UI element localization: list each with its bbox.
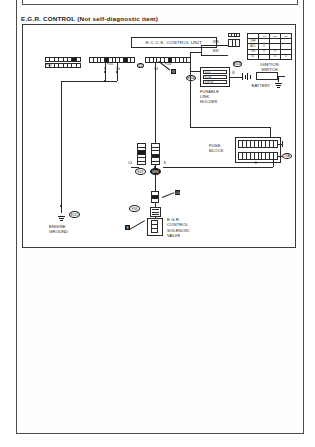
wire-marker-junction-right: B (164, 162, 166, 165)
eccs-control-unit-header: E.C.C.S. CONTROL UNIT (131, 37, 217, 48)
egr-solenoid-valve-label: E.G.R. CONTROL SOLENOID VALVE (167, 217, 189, 238)
ignition-switch-connector-tag: E105 (233, 61, 242, 67)
eccs-connector-left-row1 (45, 57, 81, 62)
wire-color-marker-solenoid-bottom: B (125, 225, 130, 230)
wire-ign-top (201, 45, 228, 46)
wire-flh-in (190, 71, 200, 72)
wire-battery-in (237, 77, 242, 78)
fuse-element-upper (238, 140, 278, 148)
battery-box (256, 72, 278, 80)
scanned-page: E.G.R. SYSTEM (Not self-diagnostic item)… (0, 0, 315, 447)
wire-solenoid-a (155, 203, 156, 208)
fusible-link-holder: 0.5 L 0.5 B 0.85 W (200, 67, 230, 87)
table-cell: OFF (248, 39, 259, 43)
wire-fuse-to-junction (163, 167, 273, 168)
wire-marker-ignition: W/B (213, 41, 219, 44)
eccs-connector-mid (89, 57, 135, 63)
battery-ground-icon (275, 82, 282, 88)
wire-fuse-out-h (278, 156, 283, 157)
wire-color-marker-eccs-right: W (171, 69, 176, 74)
harness-junction-left-tag: E19 (135, 168, 146, 175)
wire-marker-flh-out: W (232, 72, 235, 75)
fusible-link: 0.85 W (203, 80, 227, 84)
table-cell (281, 44, 291, 48)
eccs-connector-right (145, 57, 191, 63)
previous-section-box: E.G.R. SYSTEM (Not self-diagnostic item) (22, 0, 298, 5)
wire-marker-ignition-feed: B/W (213, 50, 219, 53)
leader-line (162, 192, 174, 198)
fuse-block-rating-tag: 15A (282, 153, 292, 159)
wire-ign-bottom (201, 55, 228, 56)
table-cell: O (270, 55, 281, 59)
junction-dot (116, 71, 118, 73)
wire-fuse-down (273, 156, 274, 167)
fusible-link: 0.5 B (203, 75, 227, 79)
junction-dot (104, 80, 106, 82)
wire-color-marker-solenoid-top: LG (175, 190, 180, 195)
wire-eccs-to-solenoid (155, 77, 156, 193)
leader-line (129, 220, 145, 230)
table-cell (248, 34, 259, 38)
wire-eccs-to-ground-v (61, 81, 62, 213)
wire-eccs-to-ground-h (61, 81, 117, 82)
ignition-switch-connector-comb (228, 33, 240, 37)
junction-dot (104, 71, 106, 73)
wiring-diagram: E.C.C.S. CONTROL UNIT F102 F101 F103 11 … (22, 24, 296, 248)
solenoid-coil-symbol (150, 207, 161, 217)
wire-eccs-pin-c (155, 63, 156, 77)
table-cell: O (259, 50, 270, 54)
table-cell: ON (248, 50, 259, 54)
table-cell (259, 39, 270, 43)
solenoid-connector (151, 191, 159, 203)
solenoid-connector-tag: F26 (129, 205, 140, 212)
eccs-control-unit-label: E.C.C.S. CONTROL UNIT (146, 40, 202, 45)
wire-marker-fuse-out: B (255, 162, 257, 165)
engine-ground-icon (58, 215, 65, 221)
table-cell: ACC (259, 34, 270, 38)
table-cell: O (281, 55, 291, 59)
table-cell (270, 44, 281, 48)
engine-ground-label: ENGINE GROUND (49, 224, 68, 235)
wire-ign-left-v (201, 45, 202, 55)
fuse-element-lower (238, 152, 278, 160)
wire-solenoid-b (155, 217, 156, 219)
table-cell: ST (281, 34, 291, 38)
fuse-block-label: FUSE BLOCK (209, 143, 224, 154)
table-cell (281, 39, 291, 43)
engine-ground-connector-tag: E115 (69, 211, 80, 218)
table-cell (259, 55, 270, 59)
fusible-link-holder-label: FUSABLE LINK HOLDER (200, 89, 219, 104)
wire-power-loop-bottom (190, 127, 270, 128)
ignition-switch-connector-body (228, 39, 240, 47)
harness-connector-right (151, 143, 160, 165)
page-title: E.G.R. CONTROL (Not self-diagnostic item… (21, 15, 158, 22)
wire-junction-left-stub (131, 167, 139, 168)
table-cell: O (259, 44, 270, 48)
table-cell (281, 50, 291, 54)
wire-power-loop-left (190, 52, 191, 127)
table-cell: ST (248, 55, 259, 59)
eccs-connector-mid-tag: F101 (107, 63, 113, 66)
harness-connector-left (137, 143, 146, 165)
table-cell: ACC (248, 44, 259, 48)
battery-symbol (242, 73, 252, 80)
harness-junction-right-tag: M84 (150, 168, 161, 175)
junction-dot (154, 166, 156, 168)
fusible-link: 0.5 L (203, 70, 227, 74)
eccs-pin-tag: 11 (137, 63, 144, 68)
wire-marker-junction-left: LG (128, 162, 132, 165)
eccs-connector-left-tag: F102 (46, 64, 52, 67)
fusible-link-holder-connector-tag: E104 (186, 75, 196, 81)
solenoid-valve-terminals (151, 220, 158, 233)
wire-fuse-in-h (278, 144, 283, 145)
junction-dot (60, 205, 62, 207)
table-row: ST O O (248, 55, 291, 59)
ignition-switch-table: ACC ON ST OFF ACC O ON O O (247, 33, 292, 60)
wire-power-loop-top (190, 52, 201, 53)
table-cell (270, 39, 281, 43)
wire-battery-gnd (278, 76, 279, 82)
table-cell: O (270, 50, 281, 54)
table-cell: ON (270, 34, 281, 38)
ignition-switch-label: IGNITION SWITCH (247, 62, 292, 72)
wire-battery-out (278, 76, 285, 77)
